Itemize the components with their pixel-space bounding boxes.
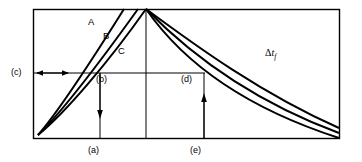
c-span-arrow (36, 70, 69, 76)
annotation-a: (a) (88, 146, 99, 155)
annotation-d: (d) (181, 75, 192, 84)
e-up-arrow (201, 93, 207, 138)
curve-label-c: C (118, 46, 125, 56)
annotation-b: (b) (96, 75, 107, 84)
annotation-c: (c) (11, 68, 22, 77)
figure-container: A B C (a) (b) (c) (d) (e) Δtf (0, 0, 362, 162)
curve-label-b: B (103, 31, 109, 41)
delta-t-f-label: Δtf (265, 48, 276, 61)
annotation-e: (e) (190, 146, 201, 155)
f-subscript: f (274, 52, 276, 61)
curve-label-a: A (88, 17, 94, 27)
curve-a-rise (38, 9, 124, 135)
curve-a-decay (146, 9, 339, 128)
